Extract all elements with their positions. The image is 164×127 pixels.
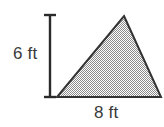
geometry-figure: 6 ft 8 ft	[0, 0, 164, 127]
height-dimension-line	[44, 14, 56, 98]
shaded-triangle	[57, 16, 161, 97]
figure-canvas	[0, 0, 164, 127]
base-label: 8 ft	[94, 104, 118, 121]
height-label: 6 ft	[13, 45, 37, 62]
